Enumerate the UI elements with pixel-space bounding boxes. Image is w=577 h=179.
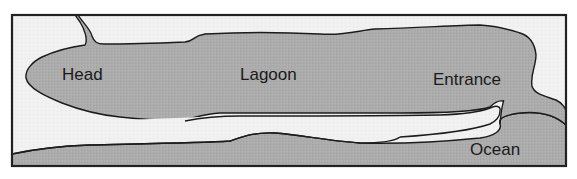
label-head: Head <box>62 66 103 83</box>
lagoon-diagram: Head Lagoon Entrance Ocean <box>0 0 577 179</box>
label-lagoon: Lagoon <box>240 66 297 83</box>
label-ocean: Ocean <box>470 141 520 158</box>
label-entrance: Entrance <box>433 71 501 88</box>
